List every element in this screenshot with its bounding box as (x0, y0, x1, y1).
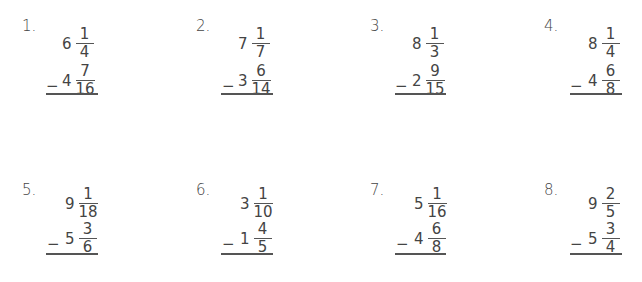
denominator: 8 (606, 82, 616, 97)
fraction: 1 4 (602, 27, 620, 60)
denominator: 16 (76, 82, 95, 97)
denominator: 18 (79, 205, 98, 220)
numerator: 6 (606, 64, 616, 79)
fraction: 3 4 (602, 222, 620, 255)
minus-sign: − (222, 236, 235, 252)
minus-sign: − (570, 78, 583, 94)
numerator: 1 (83, 187, 93, 202)
numerator: 3 (83, 222, 93, 237)
denominator: 3 (430, 45, 440, 60)
numerator: 4 (258, 222, 268, 237)
denominator: 7 (256, 45, 266, 60)
minuend: 5 1 16 (414, 187, 447, 220)
minus-sign: − (395, 78, 408, 94)
fraction: 3 6 (79, 222, 97, 255)
answer-line (395, 253, 446, 255)
subtrahend: 4 6 8 (414, 222, 446, 255)
problem-number: 5. (22, 182, 36, 198)
problem-number: 8. (544, 182, 558, 198)
minuend: 3 1 10 (240, 187, 273, 220)
fraction: 1 10 (254, 187, 273, 220)
answer-line (570, 253, 622, 255)
minuend: 8 1 4 (588, 27, 620, 60)
fraction: 1 7 (252, 27, 270, 60)
fraction: 1 16 (428, 187, 447, 220)
numerator: 6 (432, 222, 442, 237)
whole-part: 8 (588, 36, 598, 52)
subtrahend: 1 4 5 (240, 222, 272, 255)
whole-part: 2 (412, 73, 422, 89)
numerator: 1 (258, 187, 268, 202)
problem-7: 7. 5 1 16 4 6 8 − (370, 182, 500, 282)
answer-line (570, 93, 622, 95)
whole-part: 3 (238, 73, 248, 89)
problem-number: 7. (370, 182, 384, 198)
numerator: 9 (430, 64, 440, 79)
minuend: 7 1 7 (238, 27, 270, 60)
whole-part: 9 (65, 196, 75, 212)
problem-number: 6. (196, 182, 210, 198)
answer-line (46, 93, 98, 95)
answer-line (395, 93, 446, 95)
denominator: 15 (426, 82, 445, 97)
problem-number: 2. (196, 18, 210, 34)
whole-part: 4 (414, 231, 424, 247)
minuend: 9 2 5 (588, 187, 620, 220)
answer-line (221, 93, 273, 95)
whole-part: 4 (588, 73, 598, 89)
minus-sign: − (396, 236, 409, 252)
numerator: 1 (80, 27, 90, 42)
problem-number: 3. (370, 18, 384, 34)
minuend: 9 1 18 (65, 187, 98, 220)
answer-line (221, 253, 273, 255)
answer-line (46, 253, 98, 255)
whole-part: 5 (588, 231, 598, 247)
whole-part: 3 (240, 196, 250, 212)
problem-6: 6. 3 1 10 1 4 5 − (196, 182, 326, 282)
denominator: 4 (606, 45, 616, 60)
problem-1: 1. 6 1 4 4 7 16 − (22, 18, 152, 118)
minuend: 6 1 4 (62, 27, 94, 60)
numerator: 1 (256, 27, 266, 42)
fraction: 6 8 (428, 222, 446, 255)
whole-part: 5 (414, 196, 424, 212)
whole-part: 6 (62, 36, 72, 52)
problem-3: 3. 8 1 3 2 9 15 − (370, 18, 500, 118)
problem-number: 4. (544, 18, 558, 34)
problem-4: 4. 8 1 4 4 6 8 − (544, 18, 642, 118)
whole-part: 8 (412, 36, 422, 52)
problem-number: 1. (22, 18, 36, 34)
numerator: 1 (432, 187, 442, 202)
problem-5: 5. 9 1 18 5 3 6 − (22, 182, 152, 282)
numerator: 1 (430, 27, 440, 42)
numerator: 6 (256, 64, 266, 79)
numerator: 7 (80, 64, 90, 79)
whole-part: 9 (588, 196, 598, 212)
denominator: 10 (254, 205, 273, 220)
minus-sign: − (46, 78, 59, 94)
denominator: 5 (606, 205, 616, 220)
fraction: 2 5 (602, 187, 620, 220)
denominator: 14 (252, 82, 271, 97)
whole-part: 4 (62, 73, 72, 89)
subtrahend: 5 3 6 (65, 222, 97, 255)
denominator: 4 (80, 45, 90, 60)
whole-part: 1 (240, 231, 250, 247)
whole-part: 5 (65, 231, 75, 247)
numerator: 2 (606, 187, 616, 202)
fraction: 4 5 (254, 222, 272, 255)
numerator: 1 (606, 27, 616, 42)
minus-sign: − (47, 236, 60, 252)
minuend: 8 1 3 (412, 27, 444, 60)
fraction: 1 18 (79, 187, 98, 220)
fraction: 1 4 (76, 27, 94, 60)
subtrahend: 5 3 4 (588, 222, 620, 255)
whole-part: 7 (238, 36, 248, 52)
problem-8: 8. 9 2 5 5 3 4 − (544, 182, 642, 282)
problem-2: 2. 7 1 7 3 6 14 − (196, 18, 326, 118)
minus-sign: − (222, 78, 235, 94)
fraction: 1 3 (426, 27, 444, 60)
minus-sign: − (570, 236, 583, 252)
denominator: 16 (428, 205, 447, 220)
numerator: 3 (606, 222, 616, 237)
